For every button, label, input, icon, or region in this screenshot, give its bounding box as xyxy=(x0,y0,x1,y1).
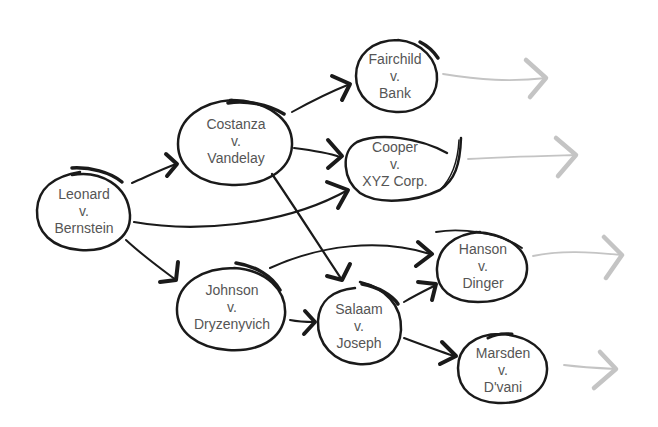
edge-costanza-cooper xyxy=(294,140,342,168)
case-party-2: Bernstein xyxy=(54,220,113,237)
node-marsden-v-dvani: Marsden v. D'vani xyxy=(460,340,546,400)
case-versus: v. xyxy=(231,133,241,150)
case-versus: v. xyxy=(390,156,400,173)
continuation-arrow-hanson xyxy=(533,237,622,278)
node-johnson-v-dryzenyvich: Johnson v. Dryzenyvich xyxy=(180,274,284,340)
node-fairchild-v-bank: Fairchild v. Bank xyxy=(355,44,435,108)
edge-johnson-salaam xyxy=(290,311,315,334)
case-party-1: Leonard xyxy=(58,186,109,203)
case-party-2: Bank xyxy=(379,85,411,102)
case-party-2: Vandelay xyxy=(207,150,264,167)
case-party-1: Johnson xyxy=(206,282,259,299)
edge-leonard-costanza xyxy=(132,154,177,183)
node-leonard-v-bernstein: Leonard v. Bernstein xyxy=(37,178,131,244)
edge-leonard-johnson xyxy=(126,240,178,282)
citation-diagram: Leonard v. Bernstein Costanza v. Vandela… xyxy=(0,0,658,427)
edge-costanza-salaam xyxy=(272,174,350,280)
case-party-2: Dinger xyxy=(462,275,503,292)
case-versus: v. xyxy=(390,68,400,85)
node-cooper-v-xyz-corp: Cooper v. XYZ Corp. xyxy=(350,134,440,194)
case-versus: v. xyxy=(498,362,508,379)
edge-salaam-marsden xyxy=(404,338,456,364)
case-versus: v. xyxy=(478,258,488,275)
case-party-2: XYZ Corp. xyxy=(362,173,427,190)
case-versus: v. xyxy=(354,318,364,335)
case-party-1: Marsden xyxy=(476,345,530,362)
case-party-2: D'vani xyxy=(484,379,522,396)
case-party-1: Costanza xyxy=(206,116,265,133)
node-salaam-v-joseph: Salaam v. Joseph xyxy=(318,294,400,358)
node-hanson-v-dinger: Hanson v. Dinger xyxy=(440,236,526,296)
case-party-1: Hanson xyxy=(459,241,507,258)
case-party-1: Salaam xyxy=(335,301,382,318)
continuation-arrow-cooper xyxy=(468,138,576,176)
case-party-2: Joseph xyxy=(336,335,381,352)
case-versus: v. xyxy=(79,203,89,220)
edge-salaam-hanson xyxy=(404,282,436,302)
edge-leonard-cooper xyxy=(134,182,348,227)
case-party-1: Cooper xyxy=(372,139,418,156)
node-costanza-v-vandelay: Costanza v. Vandelay xyxy=(180,108,292,174)
continuation-arrow-marsden xyxy=(564,352,616,388)
edge-costanza-fairchild xyxy=(292,76,350,112)
continuation-arrow-fairchild xyxy=(443,60,547,97)
case-party-1: Fairchild xyxy=(369,51,422,68)
case-party-2: Dryzenyvich xyxy=(194,316,270,333)
case-versus: v. xyxy=(227,299,237,316)
